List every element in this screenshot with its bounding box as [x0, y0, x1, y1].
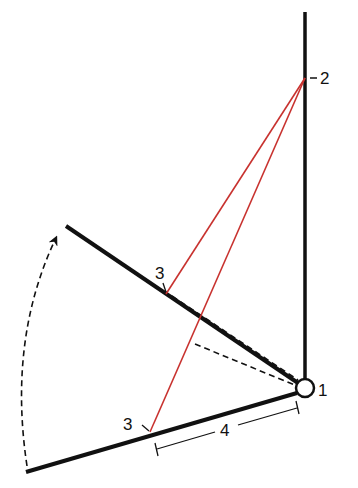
rotation-diagram: 2 1 3 3 4: [0, 0, 358, 488]
rotation-arrow: [22, 240, 55, 466]
pivot-circle: [296, 379, 314, 397]
label-3-lower-tick: [142, 425, 149, 431]
label-lower-arm-point: 3: [123, 415, 132, 434]
label-distance: 4: [220, 421, 229, 440]
label-top-point: 2: [320, 69, 329, 88]
label-upper-arm-point: 3: [155, 264, 164, 283]
dimension-line-left: [157, 432, 215, 449]
dimension-line-right: [238, 408, 297, 425]
dashed-pivot-line: [195, 344, 297, 386]
label-pivot: 1: [318, 381, 327, 400]
red-line-upper: [166, 78, 305, 294]
